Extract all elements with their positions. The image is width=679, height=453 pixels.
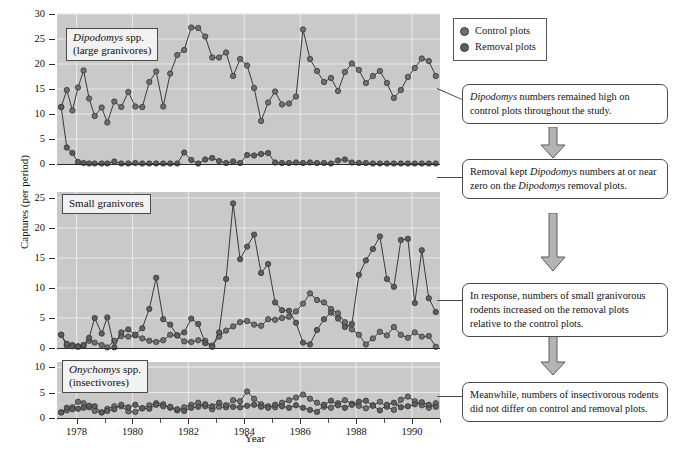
panel-baseline [57,418,440,419]
legend-label-control: Control plots [475,23,530,39]
data-point [64,341,69,346]
data-point [175,333,180,338]
flow-arrow-3-icon [539,335,567,377]
legend-item-control: Control plots [460,23,536,39]
data-point [223,328,228,333]
data-point [251,153,256,158]
data-point [293,309,298,314]
data-point [251,232,256,237]
panel-baseline [57,348,440,349]
callout-2-genus-a: Dipodomys [530,166,577,177]
x-tick-label: 1986 [280,427,320,438]
y-tick-label: 25 [19,34,45,45]
y-tick-mark [49,348,55,349]
y-tick-mark [49,288,55,289]
data-point [272,89,277,94]
y-tick-mark [49,64,55,65]
data-point [182,150,187,155]
data-point [133,332,138,337]
data-point [405,236,410,241]
data-point [258,404,263,409]
data-point [216,55,221,60]
data-point [112,407,117,412]
data-point [391,95,396,100]
data-point [377,234,382,239]
callout-onychomys: Meanwhile, numbers of insectivorous rode… [462,382,668,422]
data-point [154,69,159,74]
data-point [251,396,256,401]
data-point [168,71,173,76]
data-point [168,404,173,409]
data-point [99,331,104,336]
data-point [314,68,319,73]
x-tick-mark-minor [328,419,329,423]
data-point [126,334,131,339]
data-point [398,237,403,242]
data-point [370,246,375,251]
data-point [81,405,86,410]
data-point [92,340,97,345]
y-tick-label: 0 [19,413,45,424]
panel-small-granivores [57,192,440,348]
data-point [216,330,221,335]
y-tick-label: 20 [19,59,45,70]
data-point [175,52,180,57]
data-point [81,342,86,347]
data-point [210,55,215,60]
data-point [286,398,291,403]
panel-label-dipodomys-sub: (large granivores) [73,44,151,57]
x-tick-mark-minor [384,419,385,423]
y-tick-label: 15 [19,84,45,95]
data-point [321,79,326,84]
data-point [391,400,396,405]
callout-1-genus: Dipodomys [470,91,517,102]
data-point [64,87,69,92]
data-point [307,396,312,401]
data-point [426,58,431,63]
data-point [265,100,270,105]
leader-line-callout-4 [437,396,462,397]
data-point [237,320,242,325]
data-point [203,341,208,346]
data-point [363,406,368,411]
data-point [370,73,375,78]
data-point [265,261,270,266]
data-point [349,321,354,326]
data-point [258,118,263,123]
legend: Control plots Removal plots [453,18,547,61]
data-point [412,300,417,305]
data-point [272,300,277,305]
data-point [189,339,194,344]
data-point [161,404,166,409]
x-tick-mark [77,419,78,424]
data-point [75,406,80,411]
data-point [391,324,396,329]
data-point [258,323,263,328]
data-point [244,403,249,408]
data-point [161,317,166,322]
data-point [182,408,187,413]
data-point [384,80,389,85]
data-point [147,79,152,84]
data-point [244,318,249,323]
data-point [119,330,124,335]
data-point [370,336,375,341]
flow-arrow-1-icon [539,127,567,159]
data-point [349,402,354,407]
x-tick-label: 1988 [336,427,376,438]
data-point [405,394,410,399]
data-point [405,404,410,409]
data-point [223,403,228,408]
data-point [92,404,97,409]
y-tick-label: 10 [19,283,45,294]
data-point [105,408,110,413]
data-point [105,120,110,125]
data-point [203,34,208,39]
data-point [321,300,326,305]
callout-dipodomys-control: Dipodomys numbers remained high on contr… [462,84,668,124]
data-point [244,63,249,68]
data-point [86,335,91,340]
data-point [314,327,319,332]
data-point [126,89,131,94]
data-point [300,301,305,306]
